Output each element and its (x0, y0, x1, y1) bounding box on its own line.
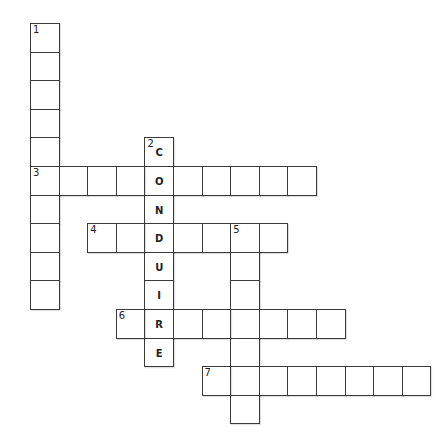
crossword-cell[interactable]: E (144, 338, 174, 368)
clue-number: 6 (119, 311, 125, 321)
crossword-cell[interactable] (116, 166, 146, 196)
crossword-cell[interactable] (202, 223, 232, 253)
crossword-cell[interactable] (30, 80, 60, 110)
crossword-cell[interactable] (30, 109, 60, 139)
crossword-cell[interactable]: 7 (202, 366, 232, 396)
crossword-cell[interactable]: 3 (30, 166, 60, 196)
clue-number: 3 (33, 168, 39, 178)
crossword-cell[interactable] (173, 309, 203, 339)
crossword-cell[interactable]: 5 (230, 223, 260, 253)
crossword-cell[interactable] (259, 223, 289, 253)
crossword-cell[interactable] (30, 223, 60, 253)
crossword-cell[interactable]: I (144, 280, 174, 310)
cell-letter: D (145, 233, 173, 244)
crossword-cell[interactable] (230, 338, 260, 368)
crossword-cell[interactable] (259, 366, 289, 396)
crossword-cell[interactable] (402, 366, 432, 396)
crossword-cell[interactable] (202, 166, 232, 196)
cell-letter: N (145, 205, 173, 216)
cell-letter: I (145, 290, 173, 301)
crossword-cell[interactable] (30, 52, 60, 82)
crossword-cell[interactable]: N (144, 195, 174, 225)
crossword-cell[interactable] (173, 166, 203, 196)
clue-number: 5 (233, 225, 239, 235)
crossword-cell[interactable] (173, 223, 203, 253)
crossword-cell[interactable]: 6 (116, 309, 146, 339)
crossword-cell[interactable] (87, 166, 117, 196)
crossword-cell[interactable] (30, 252, 60, 282)
cell-letter: C (145, 147, 173, 158)
cell-letter: O (145, 176, 173, 187)
crossword-cell[interactable] (230, 280, 260, 310)
crossword-cell[interactable] (30, 137, 60, 167)
crossword-cell[interactable] (287, 166, 317, 196)
crossword-cell[interactable] (230, 366, 260, 396)
crossword-cell[interactable] (259, 166, 289, 196)
clue-number: 7 (205, 368, 211, 378)
crossword-cell[interactable]: 1 (30, 23, 60, 53)
crossword-cell[interactable]: 4 (87, 223, 117, 253)
crossword-cell[interactable] (116, 223, 146, 253)
crossword-cell[interactable] (259, 309, 289, 339)
crossword-cell[interactable]: R (144, 309, 174, 339)
crossword-cell[interactable] (230, 309, 260, 339)
clue-number: 4 (90, 225, 96, 235)
crossword-cell[interactable] (287, 309, 317, 339)
crossword-cell[interactable]: 2C (144, 137, 174, 167)
crossword-cell[interactable] (287, 366, 317, 396)
crossword-cell[interactable]: U (144, 252, 174, 282)
crossword-cell[interactable] (30, 280, 60, 310)
crossword-grid: 132CONDUIRE4567 (0, 0, 436, 439)
crossword-cell[interactable] (230, 252, 260, 282)
crossword-cell[interactable] (202, 309, 232, 339)
crossword-cell[interactable] (373, 366, 403, 396)
crossword-cell[interactable] (30, 195, 60, 225)
cell-letter: U (145, 262, 173, 273)
cell-letter: R (145, 319, 173, 330)
crossword-cell[interactable] (345, 366, 375, 396)
crossword-cell[interactable]: D (144, 223, 174, 253)
crossword-cell[interactable] (230, 395, 260, 425)
crossword-cell[interactable]: O (144, 166, 174, 196)
crossword-cell[interactable] (230, 166, 260, 196)
crossword-cell[interactable] (59, 166, 89, 196)
cell-letter: E (145, 348, 173, 359)
crossword-cell[interactable] (316, 309, 346, 339)
crossword-cell[interactable] (316, 366, 346, 396)
clue-number: 1 (33, 25, 39, 35)
